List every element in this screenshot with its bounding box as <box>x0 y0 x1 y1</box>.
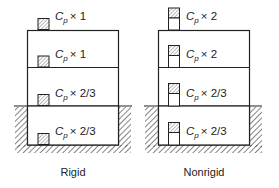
nonrigid-equipment-basement <box>169 123 180 146</box>
nonrigid-equipment-ground <box>169 84 180 107</box>
rigid-caption: Rigid <box>60 166 85 178</box>
nonrigid-equipment-roof <box>169 8 180 30</box>
nonrigid-roof-label: Cp× 2 <box>186 10 217 25</box>
nonrigid-equipment-upper <box>169 46 180 68</box>
nonrigid-panel: Cp× 2 Cp× 2 Cp× 2/3 Cp× 2/3 Nonrigid <box>144 8 262 178</box>
diagram-canvas: Cp× 1 Cp× 1 Cp× 2/3 Cp× 2/3 Rigid <box>0 0 279 188</box>
rigid-roof-label: Cp× 1 <box>55 10 86 25</box>
rigid-panel: Cp× 1 Cp× 1 Cp× 2/3 Cp× 2/3 Rigid <box>14 10 132 178</box>
rigid-equipment-upper <box>38 56 49 67</box>
nonrigid-ground-label: Cp× 2/3 <box>186 87 227 102</box>
rigid-equipment-roof <box>38 19 49 30</box>
rigid-ground-label: Cp× 2/3 <box>55 87 96 102</box>
nonrigid-upper-label: Cp× 2 <box>186 48 217 63</box>
nonrigid-caption: Nonrigid <box>184 166 225 178</box>
rigid-upper-label: Cp× 1 <box>55 48 86 63</box>
rigid-equipment-basement <box>38 134 49 145</box>
rigid-equipment-ground <box>38 95 49 106</box>
